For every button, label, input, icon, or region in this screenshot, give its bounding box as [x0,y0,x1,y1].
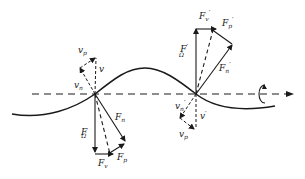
label-v-n: vn [74,80,83,91]
wave-force-diagram: vp v vn Fn FΩ Fv Fp Fv′ Fp′ F′Ω Fn′ vn′ … [0,0,305,179]
label-F-v-prime: Fv′ [198,9,211,22]
axis-arrow-icon [286,91,294,97]
right-force-vectors [196,29,232,94]
label-F-omega-prime: F′Ω [178,43,188,58]
label-v-p: vp [78,45,87,57]
label-F-n-prime: Fn′ [218,61,231,74]
axis [32,91,294,97]
wave-curve [12,68,275,116]
label-F-n: Fn [114,112,125,123]
label-F-v: Fv [97,158,108,169]
label-v-p-prime: vp′ [179,127,190,141]
label-v-prime: v′ [200,110,207,121]
label-F-p: Fp [116,152,127,164]
left-force-vectors [95,94,125,154]
label-v: v [99,64,104,74]
label-F-p-prime: Fp′ [221,16,234,30]
label-v-n-prime: vn′ [175,99,186,112]
label-F-omega: FΩ [80,127,88,139]
